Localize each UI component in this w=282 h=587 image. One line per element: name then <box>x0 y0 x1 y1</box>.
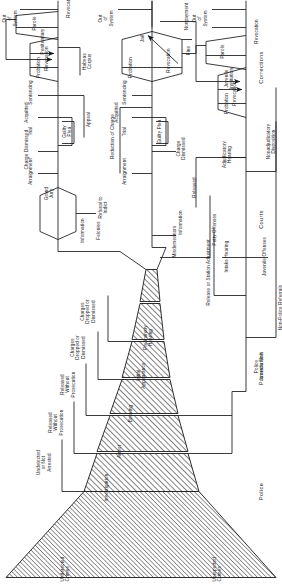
felony-parole-label: Parole <box>32 7 37 39</box>
juvenile-parole-label: Parole <box>220 35 225 67</box>
felony-guilty-plea-label: Guilty Plea <box>62 119 73 143</box>
misdemeanor-fine-label: Fine <box>186 39 191 61</box>
misdemeanor-nonpayment-label: Nonpayment <box>184 0 189 39</box>
misdemeanor-out-of-system-label: Out of System <box>98 5 114 31</box>
felony-parole-revocation-label: Revocation <box>66 0 71 27</box>
felony-grand-jury-label: Grand Jury <box>44 177 55 209</box>
juvenile-intake-hearing-label: Intake Hearing <box>224 231 229 281</box>
juvenile-institution-label: Juvenile Institution <box>224 57 235 99</box>
felony-information-label: Information <box>80 209 85 251</box>
exit-charges-dropped-2: Charges Dropped or Dismissed <box>80 287 96 335</box>
petty-offenses-label: Petty Offenses <box>212 201 217 257</box>
misdemeanor-acquitted-label: Acquitted <box>114 93 119 131</box>
misdemeanor-trial-label: Trial <box>122 117 127 145</box>
juvenile-parole-revocation-label: Revocation <box>254 9 259 53</box>
juvenile-nonadjudicatory-label: Nonadjudicatory Disposition <box>266 113 277 169</box>
stage-preliminary-hearing: Preliminary Hearing <box>143 313 154 361</box>
stage-booking: Booking <box>128 393 133 433</box>
entry-undetected-crimes: Undetected Crimes <box>60 537 71 581</box>
felony-sentencing-label: Sentencing <box>28 71 33 113</box>
felony-refusal-to-indict-label: Refusal to Indict <box>98 187 109 227</box>
juvenile-out-of-system-label: Out of System <box>192 5 208 31</box>
flowchart-lines <box>0 0 282 587</box>
diagram-root: Police Prosecution Courts Corrections Un… <box>0 0 282 587</box>
misdemeanor-revocation-label: Revocation <box>166 39 171 81</box>
stage-investigation: Investigation <box>104 465 109 509</box>
misdemeanors-label: Misdemeanors <box>172 215 177 267</box>
juvenile-release-or-station-label: Release or Station Adjustment <box>206 227 211 317</box>
juvenile-non-police-referrals-label: Non-Police Referrals <box>278 271 282 343</box>
misdemeanor-arraignment-label: Arraignment <box>122 149 127 193</box>
juvenile-police-unit-label: Police Juvenile Unit <box>254 343 265 389</box>
misdemeanor-information-label: Information <box>178 201 183 243</box>
misdemeanor-jail-label: Jail <box>140 27 145 49</box>
misdemeanor-sentencing-label: Sentencing <box>122 71 127 113</box>
diagram-canvas: Police Prosecution Courts Corrections Un… <box>0 0 282 587</box>
felony-out-of-system-label: Out of System <box>2 5 18 31</box>
stage-arrest: Arrest <box>117 433 122 469</box>
juvenile-offenses-label: Juvenile Offenses <box>262 229 267 283</box>
felony-appeal-label: Appeal <box>86 103 91 135</box>
felony-habeas-corpus-label: Habeas Corpus <box>82 43 93 79</box>
misdemeanor-probation-label: Probation <box>128 47 133 87</box>
misdemeanor-guilty-plea-label: Guilty Plea <box>157 115 162 147</box>
juvenile-released-label: Released <box>192 169 197 205</box>
section-header-police: Police <box>258 469 264 513</box>
entry-unreported-crimes: Unreported Crimes <box>212 537 223 581</box>
felony-penitentiary-label: Penitentiary <box>40 19 45 63</box>
misdemeanor-charge-dismissed-label: Charge Dismissed <box>176 127 187 169</box>
juvenile-adjudicatory-hearing-label: Adjudicatory Hearing <box>222 129 233 179</box>
